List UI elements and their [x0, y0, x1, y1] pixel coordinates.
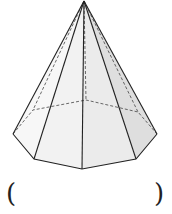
pyramid-figure: [0, 0, 172, 214]
left-parenthesis: (: [6, 178, 16, 208]
right-parenthesis: ): [154, 178, 164, 208]
